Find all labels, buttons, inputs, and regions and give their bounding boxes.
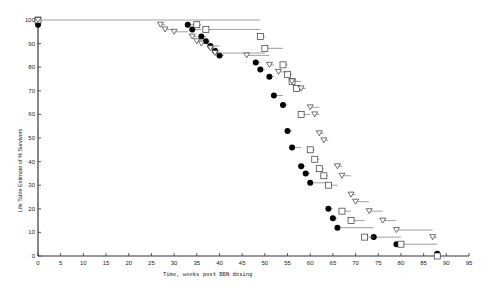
series-filled-circle: [35, 22, 440, 257]
x-tick-label: 70: [352, 260, 359, 266]
data-point-circle: [307, 180, 313, 186]
x-tick-label: 60: [307, 260, 314, 266]
x-axis-label: Time, weeks post BBN dosing: [163, 271, 252, 278]
x-tick-label: 90: [443, 260, 450, 266]
data-series: [35, 17, 440, 259]
x-tick-label: 0: [36, 260, 40, 266]
data-point-circle: [334, 225, 340, 231]
data-point-circle: [325, 206, 331, 212]
data-point-square: [298, 111, 304, 117]
x-tick-label: 5: [59, 260, 63, 266]
data-point-square: [194, 22, 200, 28]
data-point-circle: [271, 93, 277, 99]
x-tick-label: 25: [148, 260, 155, 266]
data-point-square: [398, 241, 404, 247]
x-tick-label: 50: [261, 260, 268, 266]
data-point-circle: [280, 102, 286, 108]
x-tick-label: 45: [239, 260, 246, 266]
y-tick-label: 80: [28, 64, 35, 70]
x-tick-label: 65: [330, 260, 337, 266]
x-tick-label: 30: [171, 260, 178, 266]
data-point-circle: [253, 59, 259, 65]
y-tick-label: 0: [32, 253, 36, 259]
x-tick-label: 75: [375, 260, 382, 266]
data-point-square: [307, 147, 313, 153]
data-point-square: [321, 173, 327, 179]
y-tick-label: 70: [28, 88, 35, 94]
data-point-square: [362, 234, 368, 240]
data-point-circle: [303, 170, 309, 176]
y-tick-label: 30: [28, 182, 35, 188]
y-tick-label: 50: [28, 135, 35, 141]
data-point-square: [262, 45, 268, 51]
x-tick-label: 15: [103, 260, 110, 266]
data-point-circle: [185, 22, 191, 28]
data-point-square: [339, 208, 345, 214]
data-point-square: [325, 182, 331, 188]
data-point-square: [203, 26, 209, 32]
x-tick-label: 55: [284, 260, 291, 266]
y-axis-label: Life Table Estimate of % Survivors: [17, 128, 23, 212]
data-point-circle: [266, 74, 272, 80]
data-point-circle: [298, 163, 304, 169]
data-point-square: [312, 156, 318, 162]
x-tick-label: 85: [420, 260, 427, 266]
data-point-circle: [289, 144, 295, 150]
y-tick-label: 40: [28, 159, 35, 165]
x-tick-label: 80: [398, 260, 405, 266]
data-point-circle: [330, 215, 336, 221]
series-open-triangle: [35, 18, 437, 240]
y-tick-label: 60: [28, 111, 35, 117]
y-tick-label: 90: [28, 41, 35, 47]
x-tick-label: 10: [80, 260, 87, 266]
data-point-circle: [257, 67, 263, 73]
x-tick-label: 40: [216, 260, 223, 266]
data-point-square: [257, 34, 263, 40]
y-tick-label: 100: [25, 17, 36, 23]
x-tick-label: 35: [193, 260, 200, 266]
data-point-square: [348, 218, 354, 224]
data-point-square: [316, 166, 322, 172]
survival-chart: 0510152025303540455055606570758085909501…: [0, 0, 488, 287]
data-point-circle: [285, 128, 291, 134]
data-point-square: [280, 62, 286, 68]
y-tick-label: 10: [28, 229, 35, 235]
x-tick-label: 20: [125, 260, 132, 266]
data-point-square: [434, 253, 440, 259]
y-tick-label: 20: [28, 206, 35, 212]
x-tick-label: 95: [466, 260, 473, 266]
